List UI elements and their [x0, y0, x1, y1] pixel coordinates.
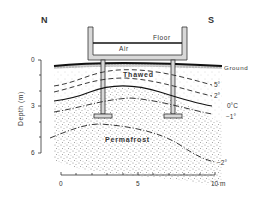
north-label: N [41, 15, 48, 25]
pile-foot-right [164, 114, 182, 118]
permafrost-label: Permafrost [105, 136, 150, 143]
air-label: Air [119, 45, 129, 52]
pile-right [171, 60, 175, 114]
south-label: S [208, 15, 214, 25]
depth-tick-0: 0 [31, 56, 35, 63]
floor-label: Floor [153, 34, 171, 41]
pile-left [101, 60, 105, 114]
thawed-label: Thawed [123, 71, 154, 78]
isotherm-label-5: 5° [214, 81, 221, 88]
depth-tick-6: 6 [31, 149, 35, 156]
depth-tick-3: 3 [31, 102, 35, 109]
ground-label: Ground [224, 64, 248, 71]
distance-tick-10: 10 m [211, 180, 225, 187]
isotherm-label-2: 2° [214, 92, 221, 99]
depth-axis-title: Depth (m) [17, 91, 25, 126]
permafrost-diagram: N S Floor Air Ground Thawed Permafrost 5… [0, 0, 265, 201]
isotherm-label-minus2: −2° [217, 159, 227, 166]
isotherm-label-minus1: −1° [226, 113, 236, 120]
distance-tick-0: 0 [59, 180, 63, 187]
pile-foot-left [94, 114, 112, 118]
isotherm-label-0: 0°C [227, 102, 238, 109]
depth-axis [38, 60, 41, 153]
distance-tick-5: 5 [136, 180, 140, 187]
